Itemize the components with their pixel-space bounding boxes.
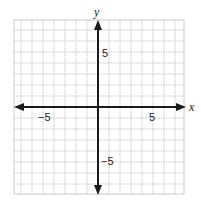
y-tick-label-neg5: −5 (101, 155, 114, 167)
x-axis-right-arrow-icon (176, 103, 186, 111)
x-tick-label-neg5: −5 (38, 111, 51, 123)
y-axis-down-arrow-icon (94, 185, 102, 195)
y-tick-label-pos5: 5 (102, 47, 108, 59)
x-tick-label-pos5: 5 (149, 111, 155, 123)
y-axis-up-arrow-icon (94, 20, 102, 30)
x-axis-left-arrow-icon (14, 103, 24, 111)
coordinate-plane: y x −5 5 5 −5 (0, 0, 201, 204)
x-axis-label: x (188, 100, 195, 114)
y-axis-label: y (93, 5, 100, 19)
